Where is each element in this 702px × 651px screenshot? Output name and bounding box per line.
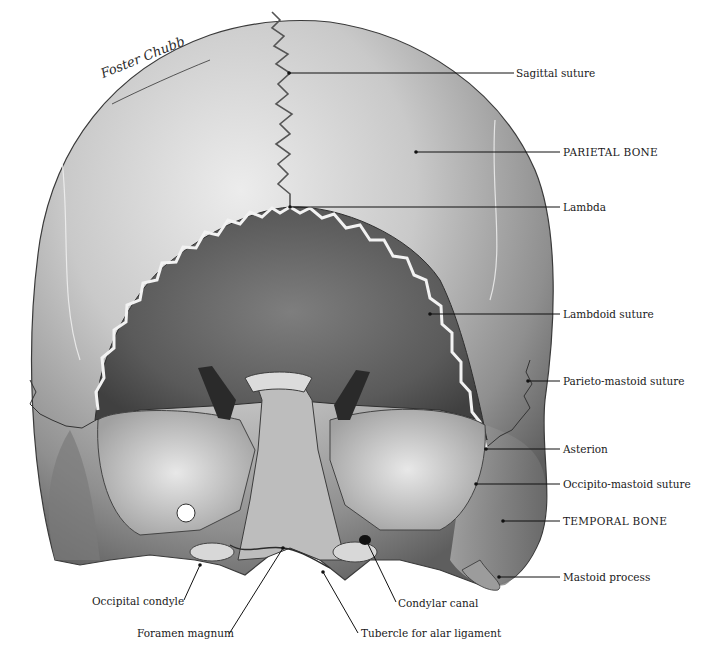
label-parieto-mastoid-suture: Parieto-mastoid suture xyxy=(563,375,684,387)
label-temporal-bone: TEMPORAL BONE xyxy=(563,515,667,527)
label-sagittal-suture: Sagittal suture xyxy=(516,67,595,79)
label-mastoid-process: Mastoid process xyxy=(563,571,650,583)
label-lambda: Lambda xyxy=(563,201,606,213)
label-parietal-bone: PARIETAL BONE xyxy=(563,146,658,158)
leader-tubercle-alar-ligament xyxy=(323,572,358,633)
label-tubercle-alar-ligament: Tubercle for alar ligament xyxy=(361,627,501,639)
label-occipito-mastoid-suture: Occipito-mastoid suture xyxy=(563,478,691,490)
label-asterion: Asterion xyxy=(563,443,608,455)
label-lambdoid-suture: Lambdoid suture xyxy=(563,308,654,320)
leader-occipital-condyle xyxy=(184,565,200,600)
skull-figure: Foster Chubb Sagittal suture PARIETAL BO… xyxy=(0,0,702,651)
label-occipital-condyle: Occipital condyle xyxy=(92,595,184,607)
label-condylar-canal: Condylar canal xyxy=(398,597,478,609)
skull-illustration xyxy=(0,0,702,651)
label-foramen-magnum: Foramen magnum xyxy=(137,627,234,639)
